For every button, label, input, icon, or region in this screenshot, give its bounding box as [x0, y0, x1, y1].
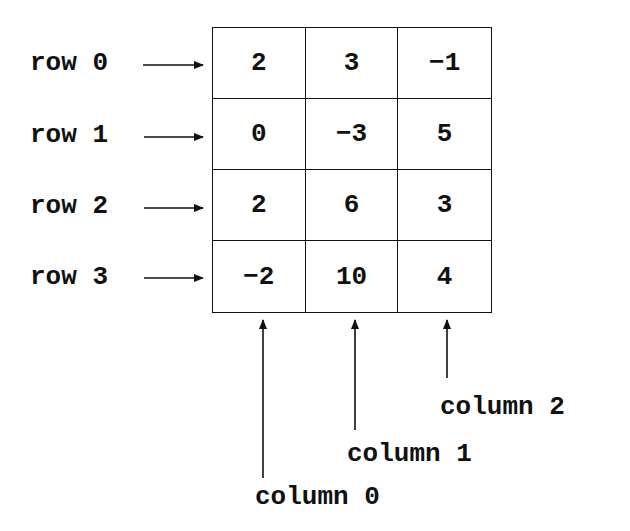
column-label-0: column 0: [255, 482, 380, 512]
column-label-2: column 2: [440, 392, 565, 422]
arrows-layer: [0, 0, 630, 531]
column-label-1: column 1: [347, 439, 472, 469]
row-arrow-icons: [143, 65, 203, 278]
